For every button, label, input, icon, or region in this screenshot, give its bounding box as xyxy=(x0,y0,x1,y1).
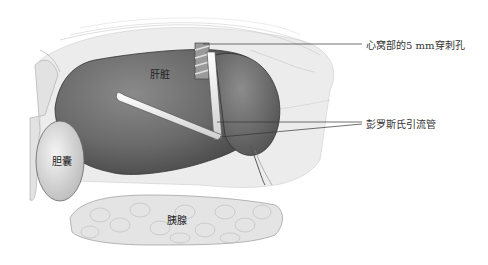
liver-label: 肝脏 xyxy=(150,66,170,81)
gallbladder-label: 胆囊 xyxy=(52,153,72,168)
trocar-port-callout: 心窝部的5 mm穿刺孔 xyxy=(366,37,465,52)
pancreas-label: 胰腺 xyxy=(167,212,187,227)
penrose-drain-callout: 彭罗斯氏引流管 xyxy=(366,116,436,131)
trocar-port xyxy=(195,43,209,79)
